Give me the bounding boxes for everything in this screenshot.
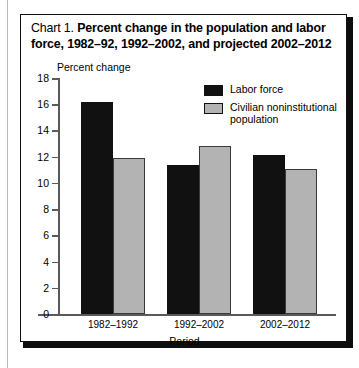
chart-legend: Labor force Civilian noninstitutional po…	[204, 84, 344, 131]
y-tick-label-14: 14	[27, 125, 49, 135]
y-tick-label-2: 2	[27, 283, 49, 293]
bar-labor-force-2002-2012	[253, 155, 285, 314]
y-axis-line	[58, 78, 60, 315]
y-tick-label-0: 0	[27, 309, 49, 319]
y-tick-4	[52, 262, 58, 264]
bar-labor-force-1992-2002	[167, 165, 199, 315]
legend-label-labor-force: Labor force	[230, 84, 344, 96]
y-tick-6	[52, 235, 58, 237]
y-tick-label-16: 16	[27, 99, 49, 109]
y-tick-14	[52, 130, 58, 132]
y-tick-18	[52, 78, 58, 80]
legend-item-labor-force: Labor force	[204, 84, 344, 97]
y-tick-label-18: 18	[27, 73, 49, 83]
legend-swatch-labor-force	[204, 85, 223, 96]
y-tick-label-6: 6	[27, 230, 49, 240]
x-axis-title: Period	[21, 335, 348, 347]
y-tick-10	[52, 183, 58, 185]
figure-frame: Chart 1. Percent change in the populatio…	[20, 14, 347, 342]
bar-civilian-population-1992-2002	[199, 146, 231, 314]
bar-labor-force-1982-1992	[81, 102, 113, 314]
bar-civilian-population-1982-1992	[113, 158, 145, 314]
page-edge-rule	[7, 0, 8, 368]
y-tick-label-10: 10	[27, 178, 49, 188]
x-category-label-2002-2012: 2002–2012	[229, 319, 341, 330]
y-axis-title: Percent change	[57, 61, 131, 73]
y-tick-16	[52, 104, 58, 106]
y-tick-8	[52, 209, 58, 211]
x-axis-line	[38, 314, 336, 316]
y-tick-12	[52, 157, 58, 159]
bar-civilian-population-2002-2012	[285, 169, 317, 315]
legend-item-civilian-population: Civilian noninstitutional population	[204, 102, 344, 126]
plot-area: Percent change 18 16 14 12 10 8 6 4 2 0	[21, 15, 348, 343]
legend-label-civilian-population: Civilian noninstitutional population	[230, 102, 344, 126]
y-tick-2	[52, 288, 58, 290]
y-tick-label-4: 4	[27, 257, 49, 267]
legend-swatch-civilian-population	[204, 103, 223, 114]
y-tick-label-8: 8	[27, 204, 49, 214]
chart-figure-page: Chart 1. Percent change in the populatio…	[0, 0, 359, 368]
y-tick-label-12: 12	[27, 152, 49, 162]
